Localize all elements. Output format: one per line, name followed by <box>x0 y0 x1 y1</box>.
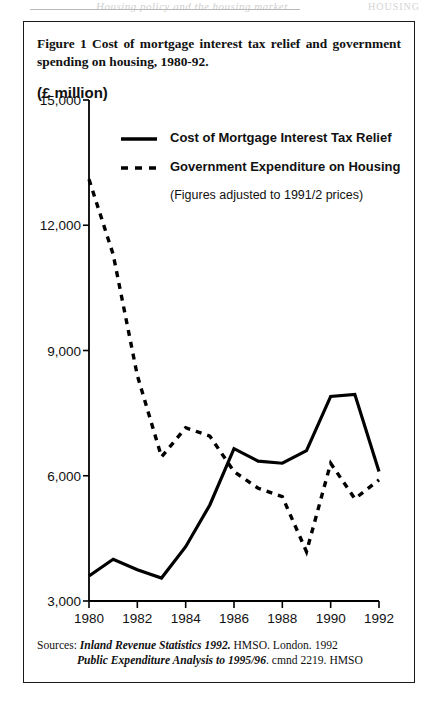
x-axis-tick-label: 1980 <box>65 611 113 626</box>
series-line-1 <box>89 394 379 578</box>
source-1-title: Inland Revenue Statistics 1992. <box>80 639 231 652</box>
legend-note: (Figures adjusted to 1991/2 prices) <box>170 188 363 202</box>
page-header-folio: HOUSING <box>368 1 420 12</box>
y-axis-tick-label: 3,000 <box>27 594 81 609</box>
x-axis-tick-label: 1986 <box>210 611 258 626</box>
x-axis-tick-label: 1988 <box>258 611 306 626</box>
legend-label-1: Cost of Mortgage Interest Tax Relief <box>170 130 392 145</box>
sources-prefix: Sources: <box>37 639 77 652</box>
y-axis-tick-label: 9,000 <box>27 343 81 358</box>
figure-frame: Figure 1 Cost of mortgage interest tax r… <box>23 21 415 683</box>
page-header-running-title: Housing policy and the housing market <box>96 0 288 12</box>
source-2-title: Public Expenditure Analysis to 1995/96 <box>77 654 266 667</box>
sources-block: Sources: Inland Revenue Statistics 1992.… <box>37 638 405 668</box>
page-header-rule <box>30 9 300 10</box>
chart-svg <box>24 22 416 684</box>
chart-plot-area: 3,0006,0009,00012,00015,000 198019821984… <box>24 22 416 684</box>
source-line-1: Sources: Inland Revenue Statistics 1992.… <box>37 638 405 653</box>
x-axis-tick-label: 1992 <box>355 611 403 626</box>
y-axis-tick-label: 6,000 <box>27 468 81 483</box>
page-header-strip: Housing policy and the housing market HO… <box>0 0 438 18</box>
legend-marks <box>121 139 157 168</box>
chart-series <box>89 179 379 578</box>
x-axis-tick-label: 1982 <box>113 611 161 626</box>
x-axis-tick-label: 1984 <box>162 611 210 626</box>
y-axis-tick-label: 15,000 <box>27 93 81 108</box>
x-axis-tick-label: 1990 <box>307 611 355 626</box>
legend-label-2: Government Expenditure on Housing <box>170 159 400 174</box>
series-line-2 <box>89 179 379 551</box>
source-line-2: Public Expenditure Analysis to 1995/96. … <box>37 653 405 668</box>
chart-axes <box>83 100 379 608</box>
y-axis-tick-label: 12,000 <box>27 218 81 233</box>
source-1-rest: HMSO. London. 1992 <box>234 639 338 652</box>
source-2-rest: . cmnd 2219. HMSO <box>266 654 363 667</box>
